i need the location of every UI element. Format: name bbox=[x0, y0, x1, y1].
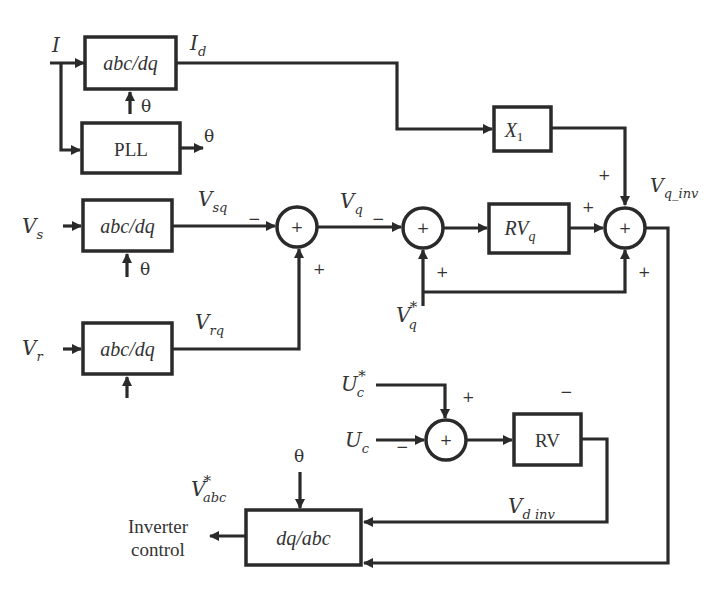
sum4-left-sign: − bbox=[396, 438, 409, 456]
input-label-vs: Vs bbox=[22, 214, 43, 242]
wire-id-to-x1 bbox=[176, 63, 492, 129]
summing-junction-3: + bbox=[605, 208, 645, 248]
sum2-bottom-sign: + bbox=[436, 263, 449, 281]
theta-label-1: θ bbox=[141, 96, 151, 116]
current-input: I bbox=[50, 33, 84, 150]
input-label-uc: Uc bbox=[345, 428, 370, 456]
signal-vsq-label: Vsq bbox=[198, 187, 227, 215]
dqabc-label: dq/abc bbox=[276, 527, 331, 550]
sum3-symbol: + bbox=[619, 219, 632, 237]
rv-label: RV bbox=[535, 430, 560, 451]
theta-label-dqabc: θ bbox=[294, 446, 304, 466]
sum2-symbol: + bbox=[417, 219, 430, 237]
block-abcdq-vr: abc/dq bbox=[83, 323, 172, 374]
sum1-bottom-sign: + bbox=[313, 260, 326, 278]
wire-vrq-to-sum1 bbox=[172, 249, 299, 349]
block-dqabc: dq/abc bbox=[246, 510, 361, 565]
block-rvq: RVq bbox=[489, 204, 569, 253]
sum4-symbol: + bbox=[440, 431, 453, 449]
output-label-line2: control bbox=[131, 539, 185, 560]
signal-vabc-ref-label: V*abc bbox=[191, 472, 227, 505]
input-label-vr: Vr bbox=[22, 336, 43, 364]
block-abcdq-current: abc/dq bbox=[85, 37, 176, 89]
input-label-i: I bbox=[51, 33, 61, 57]
block-abcdq-vs: abc/dq bbox=[83, 200, 172, 251]
wire-x1-to-sum3 bbox=[551, 128, 625, 205]
sum2-left-sign: − bbox=[372, 210, 385, 228]
block-pll: PLL bbox=[82, 123, 180, 173]
wire-ucref-to-sum4 bbox=[376, 385, 445, 418]
sum3-top-sign: + bbox=[598, 166, 611, 184]
signal-vq-inv-label: Vq_inv bbox=[650, 174, 699, 201]
input-label-ucref: Uc* bbox=[341, 367, 366, 400]
theta-label-2: θ bbox=[140, 259, 150, 279]
signal-vd-inv-label: Vd inv bbox=[508, 494, 555, 522]
input-label-vqref: Vq* bbox=[396, 298, 418, 332]
abcdq-current-label: abc/dq bbox=[103, 52, 157, 75]
pll-label: PLL bbox=[114, 139, 148, 160]
signal-vq-label: Vq bbox=[340, 189, 363, 217]
summing-junction-2: + bbox=[403, 208, 443, 248]
sum4-top-sign: + bbox=[462, 388, 475, 406]
block-rv: RV bbox=[514, 414, 581, 465]
abcdq-vr-label: abc/dq bbox=[100, 338, 154, 361]
signal-id-label: Id bbox=[189, 31, 206, 59]
abcdq-vs-label: abc/dq bbox=[100, 215, 154, 238]
summing-junction-4: + bbox=[426, 420, 466, 460]
sum1-left-sign: − bbox=[248, 210, 261, 228]
block-x1: X1 bbox=[494, 107, 551, 151]
theta-label-pll: θ bbox=[204, 126, 214, 146]
sum1-symbol: + bbox=[291, 218, 304, 236]
wire-vqref-to-sum3 bbox=[423, 250, 625, 292]
summing-junction-1: + bbox=[277, 207, 317, 247]
sum3-bottom-sign: + bbox=[638, 263, 651, 281]
sum3-left-sign: + bbox=[582, 198, 595, 216]
wire-i-to-pll bbox=[61, 63, 80, 150]
control-block-diagram: I abc/dq θ PLL θ Id X1 + Vq_inv Vs abc/d… bbox=[0, 0, 727, 595]
rv-minus-sign: − bbox=[560, 383, 573, 401]
output-label-line1: Inverter bbox=[128, 516, 189, 537]
signal-vrq-label: Vrq bbox=[195, 310, 224, 338]
